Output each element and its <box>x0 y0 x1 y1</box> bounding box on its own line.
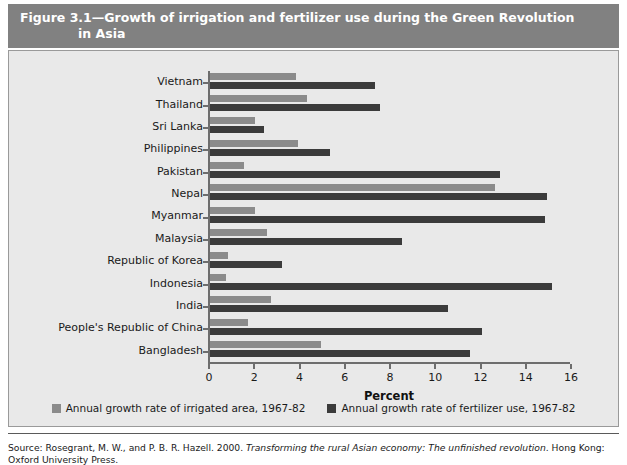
category-label: Malaysia <box>155 233 203 244</box>
legend-label: Annual growth rate of irrigated area, 19… <box>66 402 306 414</box>
x-axis-tick <box>253 364 255 369</box>
bar <box>210 305 448 312</box>
source-publisher: Oxford University Press. <box>8 454 118 465</box>
bar <box>210 341 321 348</box>
category-label: Indonesia <box>150 278 203 289</box>
bar <box>210 126 264 133</box>
bar <box>210 207 255 214</box>
bar-group: Sri Lanka <box>210 116 572 138</box>
bar <box>210 149 330 156</box>
x-axis-tick <box>299 364 301 369</box>
plot-area: VietnamThailandSri LankaPhilippinesPakis… <box>208 71 570 362</box>
x-axis-tick-label: 10 <box>420 371 450 384</box>
y-axis-tick <box>203 82 208 84</box>
bar <box>210 193 547 200</box>
legend-swatch-icon <box>327 404 336 413</box>
source-note: Source: Rosegrant, M. W., and P. B. R. H… <box>8 442 619 465</box>
bar-group: Pakistan <box>210 161 572 183</box>
legend-item[interactable]: Annual growth rate of irrigated area, 19… <box>52 402 306 414</box>
x-axis-tick-label: 6 <box>330 371 360 384</box>
bar <box>210 162 244 169</box>
bar-group: Indonesia <box>210 272 572 294</box>
bar-group: Bangladesh <box>210 340 572 362</box>
y-axis-tick <box>203 306 208 308</box>
category-label: People's Republic of China <box>58 322 203 333</box>
y-axis-tick <box>203 284 208 286</box>
x-axis-tick <box>525 364 527 369</box>
bar-group: India <box>210 295 572 317</box>
bar <box>210 328 482 335</box>
y-axis-tick <box>203 105 208 107</box>
bar <box>210 171 500 178</box>
x-axis-tick-label: 14 <box>511 371 541 384</box>
category-label: Vietnam <box>157 76 203 87</box>
chart-panel: VietnamThailandSri LankaPhilippinesPakis… <box>8 50 619 427</box>
bar <box>210 73 296 80</box>
legend-label: Annual growth rate of fertilizer use, 19… <box>341 402 575 414</box>
bar <box>210 252 228 259</box>
bar-group: Myanmar <box>210 205 572 227</box>
y-axis-tick <box>203 217 208 219</box>
category-label: Nepal <box>171 188 203 199</box>
bar <box>210 184 495 191</box>
y-axis-tick <box>203 351 208 353</box>
category-label: Philippines <box>144 143 203 154</box>
x-axis-tick-label: 4 <box>285 371 315 384</box>
y-axis-tick <box>203 261 208 263</box>
bar <box>210 261 282 268</box>
x-axis-tick <box>389 364 391 369</box>
source-prefix: Source: Rosegrant, M. W., and P. B. R. H… <box>8 442 246 453</box>
source-suffix: . Hong Kong: <box>546 442 605 453</box>
bar <box>210 350 470 357</box>
bar <box>210 274 226 281</box>
bar <box>210 296 271 303</box>
legend-swatch-icon <box>52 404 61 413</box>
y-axis-tick <box>203 239 208 241</box>
chart-legend: Annual growth rate of irrigated area, 19… <box>8 396 619 420</box>
x-axis-tick-label: 16 <box>556 371 586 384</box>
bar-group: People's Republic of China <box>210 317 572 339</box>
x-axis-tick <box>344 364 346 369</box>
bar-group: Thailand <box>210 93 572 115</box>
figure-title-line-1: Figure 3.1—Growth of irrigation and fert… <box>20 10 607 26</box>
bar <box>210 283 552 290</box>
x-axis-tick-label: 12 <box>466 371 496 384</box>
bar-group: Vietnam <box>210 71 572 93</box>
bar-group: Malaysia <box>210 228 572 250</box>
x-axis-tick-label: 2 <box>239 371 269 384</box>
y-axis-tick <box>203 172 208 174</box>
bar <box>210 95 307 102</box>
bar <box>210 229 267 236</box>
category-label: Bangladesh <box>139 345 204 356</box>
category-label: India <box>176 300 203 311</box>
bar <box>210 104 380 111</box>
bar <box>210 319 248 326</box>
x-axis-tick <box>570 364 572 369</box>
y-axis-tick <box>203 194 208 196</box>
y-axis-tick <box>203 149 208 151</box>
figure-title-bar: Figure 3.1—Growth of irrigation and fert… <box>8 4 619 48</box>
category-label: Sri Lanka <box>152 121 203 132</box>
category-label: Myanmar <box>151 210 203 221</box>
y-axis-tick <box>203 328 208 330</box>
bar <box>210 82 375 89</box>
bar-group: Nepal <box>210 183 572 205</box>
x-axis-tick-label: 0 <box>194 371 224 384</box>
x-axis-tick <box>208 364 210 369</box>
bar <box>210 216 545 223</box>
bar <box>210 238 402 245</box>
bar <box>210 117 255 124</box>
category-label: Thailand <box>156 99 203 110</box>
legend-item[interactable]: Annual growth rate of fertilizer use, 19… <box>327 402 575 414</box>
bar <box>210 140 298 147</box>
x-axis-tick <box>434 364 436 369</box>
category-label: Republic of Korea <box>107 255 203 266</box>
bar-group: Philippines <box>210 138 572 160</box>
source-title: Transforming the rural Asian economy: Th… <box>246 442 546 453</box>
y-axis-tick <box>203 127 208 129</box>
source-divider <box>8 433 619 434</box>
x-axis-tick-label: 8 <box>375 371 405 384</box>
figure-title-line-2: in Asia <box>20 26 607 42</box>
x-axis-tick <box>480 364 482 369</box>
